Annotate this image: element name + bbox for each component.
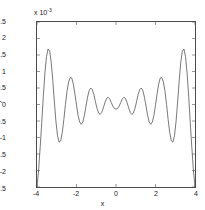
x-tick-label: 2 [146, 190, 166, 197]
y-tick-label: -1 [0, 134, 6, 141]
y-tick-label: 0.5 [0, 84, 6, 91]
series-line-y [37, 49, 195, 187]
plot-area [36, 21, 196, 188]
y-tick-label: 1.5 [0, 51, 6, 58]
y-axis-multiplier-exponent: -3 [47, 7, 51, 13]
y-tick-label: 2 [2, 34, 6, 41]
x-tick-label: -4 [26, 190, 46, 197]
y-axis-multiplier-mantissa: x 10 [34, 9, 47, 16]
x-axis-label: x [0, 200, 205, 207]
x-tick-label: -2 [66, 190, 86, 197]
y-tick-label: -1.5 [0, 151, 6, 158]
x-tick-label: 4 [186, 190, 205, 197]
y-tick-label: 1 [2, 68, 6, 75]
y-tick-label: 0 [2, 101, 6, 108]
x-tick-label: 0 [106, 190, 126, 197]
y-tick-label: 2.5 [0, 18, 6, 25]
y-axis-label: y [0, 100, 1, 104]
y-tick-label: -2.5 [0, 185, 6, 192]
figure: x 10-3 -2.5-2-1.5-1-0.500.511.522.5 -4-2… [0, 0, 205, 210]
data-line-svg [37, 22, 195, 187]
tick-marks [37, 22, 195, 187]
y-tick-label: -2 [0, 168, 6, 175]
y-tick-label: -0.5 [0, 118, 6, 125]
y-axis-multiplier-label: x 10-3 [34, 6, 52, 17]
